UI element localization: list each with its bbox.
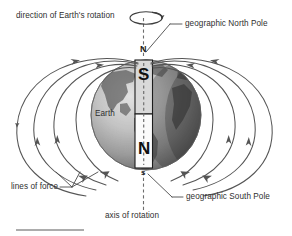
label-lines-of-force: lines of force: [11, 183, 58, 192]
label-geographic-north-pole: geographic North Pole: [185, 20, 268, 29]
rotation-direction-icon: [130, 12, 162, 24]
label-axis-of-rotation: axis of rotation: [105, 212, 159, 221]
magnet-north-pole-letter: N: [138, 140, 150, 157]
north-pole-marker: N: [140, 44, 147, 54]
label-direction-of-rotation: direction of Earth's rotation: [16, 12, 115, 21]
label-geographic-south-pole: geographic South Pole: [186, 193, 270, 202]
label-earth: Earth: [95, 110, 115, 119]
south-pole-marker: s: [141, 168, 145, 177]
magnetic-field-diagram: direction of Earth's rotation geographic…: [0, 0, 292, 236]
magnet-south-pole-letter: S: [138, 66, 149, 83]
globe-shadow: [142, 60, 245, 176]
